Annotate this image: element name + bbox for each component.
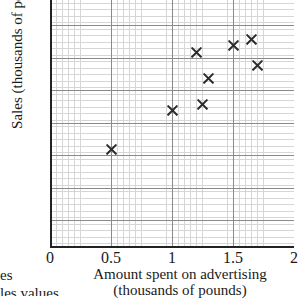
data-point-marker (105, 143, 118, 156)
data-point-marker (166, 104, 179, 117)
x-tick-label: 0 (46, 250, 54, 266)
data-point-marker (190, 46, 203, 59)
x-axis-title: Amount spent on advertising (thousands o… (60, 266, 300, 298)
scatter-plot (50, 0, 294, 248)
data-point-marker (245, 33, 258, 46)
x-axis-title-line2: (thousands of pounds) (60, 282, 300, 298)
margin-text: es les values (0, 267, 59, 296)
x-tick-label: 1.5 (223, 250, 243, 266)
margin-text-line1: es (0, 267, 59, 285)
data-point-marker (251, 59, 264, 72)
x-tick-label: 1 (168, 250, 176, 266)
data-point-marker (202, 72, 215, 85)
y-axis-line (50, 0, 52, 248)
y-axis-title: Sales (thousands of pounds) (9, 0, 26, 145)
x-axis-line (50, 246, 294, 248)
margin-text-line2: les values (0, 285, 59, 296)
x-axis-title-line1: Amount spent on advertising (60, 266, 300, 282)
data-point-marker (227, 39, 240, 52)
data-point-marker (196, 98, 209, 111)
x-tick-label: 2 (290, 250, 298, 266)
x-tick-label: 0.5 (101, 250, 121, 266)
